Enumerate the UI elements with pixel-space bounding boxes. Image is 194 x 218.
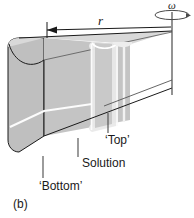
radius-arrow-line [47, 27, 171, 30]
angular-velocity-label: ω [168, 0, 176, 11]
panel-label: (b) [13, 198, 28, 210]
figure-drawing [0, 0, 194, 218]
top-annotation-label: ‘Top’ [105, 134, 130, 146]
cell-sector-column-inner [95, 43, 112, 128]
bottom-annotation-label: ‘Bottom’ [39, 180, 82, 192]
solution-annotation-label: Solution [82, 157, 125, 169]
cell-front-face [8, 38, 44, 152]
radius-arrowhead-icon [47, 27, 57, 34]
radius-label: r [98, 14, 103, 27]
centrifuge-cell-figure: ω r ‘Top’ Solution ‘Bottom’ (b) [0, 0, 194, 218]
